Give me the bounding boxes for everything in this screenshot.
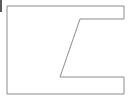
diagram-canvas xyxy=(0,0,132,101)
shape-drawing xyxy=(0,0,132,101)
left-edge-tick-marker xyxy=(0,0,2,12)
